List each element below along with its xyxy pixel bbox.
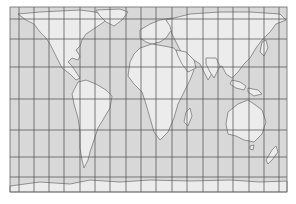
world-map bbox=[0, 0, 296, 204]
world-map-canvas bbox=[0, 0, 296, 204]
tasmania bbox=[250, 145, 254, 150]
